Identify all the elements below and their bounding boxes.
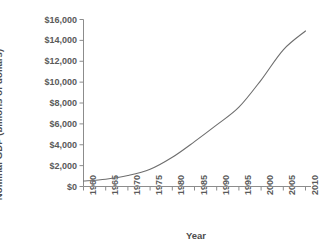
gdp-line-chart: Nominal GDP (billions of dollars) $0$2,0…	[0, 0, 324, 249]
y-axis-ticks	[80, 20, 84, 187]
plot-area	[0, 0, 324, 249]
axis-lines	[84, 20, 312, 187]
x-axis-ticks	[84, 187, 306, 191]
x-axis-title: Year	[84, 230, 308, 241]
gdp-data-line	[84, 31, 306, 181]
